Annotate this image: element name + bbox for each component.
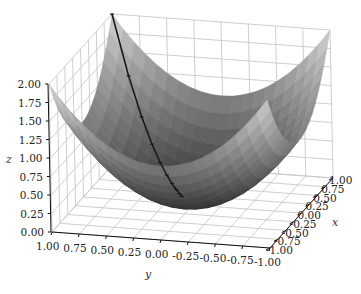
- y-tick: [133, 238, 134, 241]
- z-tick-label: 0.25: [20, 208, 43, 220]
- surface-plot-3d: -1.00-0.75-0.50-0.250.000.250.500.751.00…: [0, 0, 361, 294]
- y-tick: [106, 236, 107, 239]
- x-axis-label: x: [332, 216, 339, 229]
- z-tick-label: 2.00: [18, 78, 41, 90]
- y-tick-label: 0.00: [145, 248, 168, 260]
- y-tick-label: 1.00: [36, 240, 59, 252]
- y-tick: [187, 242, 188, 245]
- y-tick-label: 0.50: [91, 244, 114, 256]
- y-tick-label: -0.75: [227, 254, 254, 266]
- y-tick-label: 0.75: [63, 242, 86, 254]
- z-tick-label: 1.50: [18, 115, 41, 127]
- y-tick: [215, 244, 216, 247]
- x-tick-label: 1.00: [329, 174, 352, 186]
- y-tick: [78, 234, 79, 237]
- y-axis-label: y: [144, 268, 152, 281]
- y-tick-label: -0.25: [172, 250, 199, 262]
- y-tick-label: -0.50: [200, 252, 227, 264]
- y-tick: [160, 240, 161, 243]
- z-tick-label: 0.50: [20, 189, 43, 201]
- z-tick-label: 1.75: [18, 97, 41, 109]
- y-tick-label: 0.25: [118, 246, 141, 258]
- z-tick-label: 1.00: [19, 152, 42, 164]
- z-axis-label: z: [5, 153, 12, 166]
- z-tick-label: 0.00: [21, 226, 44, 238]
- y-tick: [51, 232, 52, 235]
- z-tick-label: 0.75: [19, 171, 42, 183]
- y-tick: [242, 246, 243, 249]
- y-tick-label: -1.00: [254, 256, 281, 268]
- z-tick-label: 1.25: [19, 134, 42, 146]
